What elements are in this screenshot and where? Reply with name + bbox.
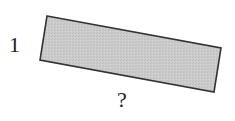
side-length-label: 1 bbox=[9, 34, 20, 56]
unknown-length-label: ? bbox=[117, 89, 127, 111]
shaded-rectangle bbox=[40, 16, 221, 92]
